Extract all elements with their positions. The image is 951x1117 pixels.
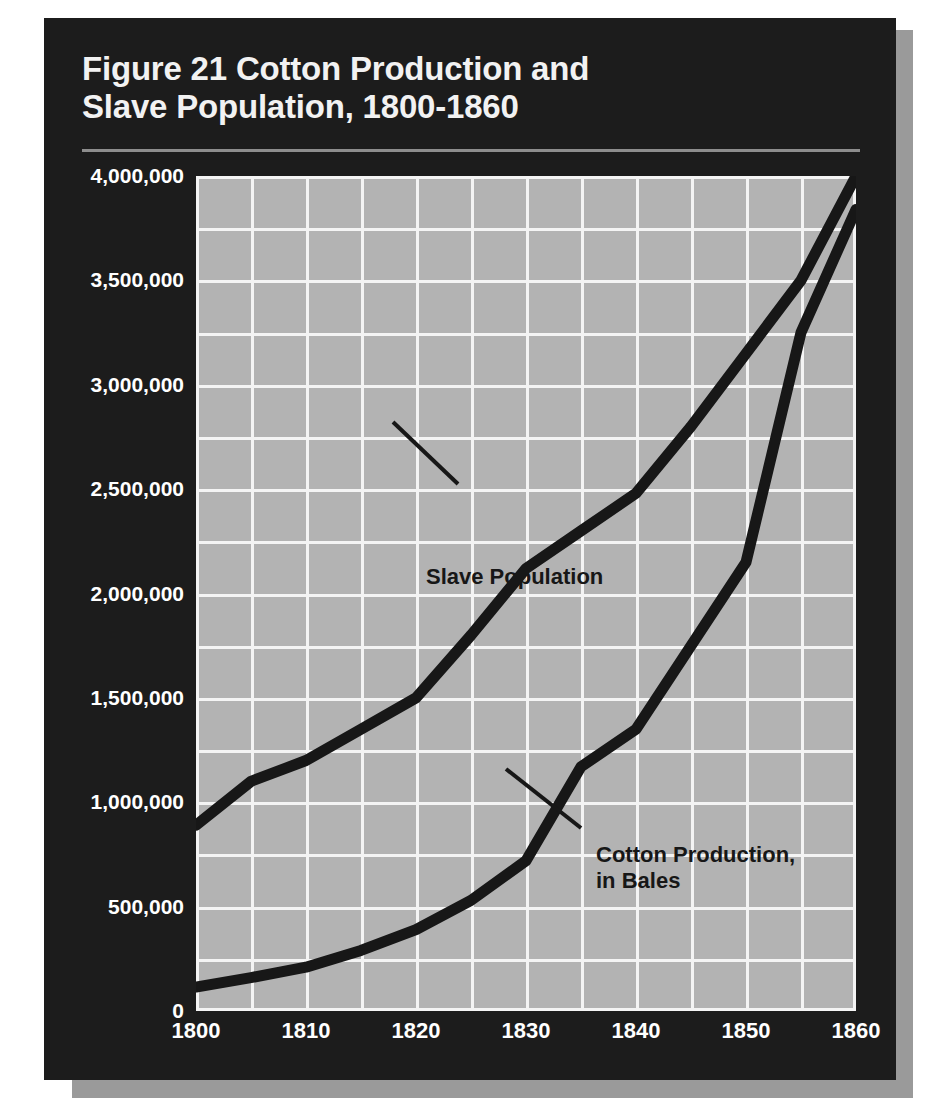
slave-population-leader-line — [393, 422, 458, 484]
figure-panel: Figure 21 Cotton Production and Slave Po… — [44, 18, 896, 1080]
y-axis-tick-label: 3,500,000 — [91, 268, 184, 292]
x-axis-tick-label: 1840 — [612, 1018, 661, 1044]
y-axis-tick-label: 4,000,000 — [91, 164, 184, 188]
x-axis-tick-label: 1820 — [392, 1018, 441, 1044]
y-axis-tick-label: 1,500,000 — [91, 686, 184, 710]
x-axis-tick-label: 1800 — [172, 1018, 221, 1044]
plot-wrapper: Slave Population Cotton Production, in B… — [196, 176, 856, 1011]
figure-title-line-1: Figure 21 Cotton Production and — [82, 50, 862, 88]
figure-title-line-2: Slave Population, 1800-1860 — [82, 88, 862, 126]
y-axis-tick-label: 500,000 — [108, 895, 184, 919]
x-axis-label-row: 1800181018201830184018501860 — [196, 1018, 856, 1058]
figure-title: Figure 21 Cotton Production and Slave Po… — [82, 50, 862, 126]
y-axis-tick-label: 1,000,000 — [91, 790, 184, 814]
annotation-cotton-production: Cotton Production, in Bales — [596, 842, 795, 894]
x-axis-tick-label: 1810 — [282, 1018, 331, 1044]
x-axis-tick-label: 1860 — [832, 1018, 881, 1044]
annotation-slave-population: Slave Population — [426, 564, 603, 590]
y-axis-tick-label: 2,500,000 — [91, 477, 184, 501]
x-axis-tick-label: 1850 — [722, 1018, 771, 1044]
y-axis-tick-label: 2,000,000 — [91, 582, 184, 606]
y-axis-tick-label: 3,000,000 — [91, 373, 184, 397]
annotation-cotton-line-1: Cotton Production, — [596, 842, 795, 868]
y-axis-label-column: 0500,0001,000,0001,500,0002,000,0002,500… — [44, 176, 184, 1011]
title-divider-rule — [82, 149, 860, 152]
annotation-cotton-line-2: in Bales — [596, 868, 795, 894]
x-axis-tick-label: 1830 — [502, 1018, 551, 1044]
